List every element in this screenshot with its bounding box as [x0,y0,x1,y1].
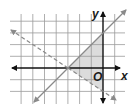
y-axis-label: y [91,7,100,21]
x-axis-label: x [120,69,129,83]
solid-boundary-line-lower [34,68,68,102]
dashed-boundary-line-upper [11,30,68,68]
origin-label: O [93,70,103,84]
coordinate-plane: y x O [0,0,134,110]
